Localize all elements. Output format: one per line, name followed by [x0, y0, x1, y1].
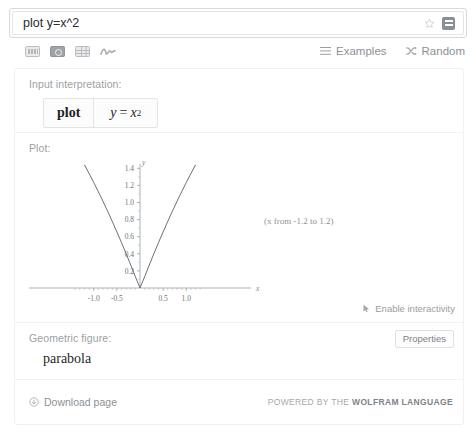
enable-interactivity-link[interactable]: Enable interactivity [362, 303, 455, 314]
cursor-icon [362, 304, 371, 313]
download-page-link[interactable]: Download page [29, 396, 117, 408]
pod-title-input-interpretation: Input interpretation: [15, 69, 463, 90]
powered-by-wolfram: POWERED BY THE WOLFRAM LANGUAGE [268, 397, 453, 407]
result-card: Input interpretation: plot y = x2 Plot: [14, 68, 464, 425]
hamburger-icon [320, 47, 331, 56]
wolfram-alpha-result-page: Examples Random Input interpretation: pl… [0, 0, 476, 436]
keyboard-icon[interactable] [25, 46, 40, 57]
random-label: Random [422, 45, 465, 57]
svg-text:1.4: 1.4 [125, 164, 135, 173]
svg-text:0.6: 0.6 [125, 232, 135, 241]
plot-range-note: (x from -1.2 to 1.2) [264, 216, 334, 226]
y-tick-labels: 0.2 0.4 0.6 0.8 1.0 1.2 1.4 [125, 164, 135, 276]
download-page-label: Download page [44, 396, 117, 408]
toolbar: Examples Random [9, 41, 467, 61]
svg-text:1.0: 1.0 [182, 294, 192, 303]
toolbar-input-icons [9, 46, 116, 57]
powered-prefix: POWERED BY THE [268, 397, 352, 407]
pod-geometric-figure: Geometric figure: parabola Properties [15, 323, 463, 380]
examples-label: Examples [336, 45, 387, 57]
random-link[interactable]: Random [405, 45, 465, 57]
pod-title-plot: Plot: [15, 133, 463, 154]
query-bar [9, 8, 467, 38]
x-axis-label: x [255, 284, 260, 293]
data-table-icon[interactable] [75, 46, 90, 57]
interpretation-expression: y = x2 [93, 99, 157, 127]
wolfram-language-brand: WOLFRAM LANGUAGE [352, 397, 453, 407]
svg-text:-0.5: -0.5 [111, 294, 123, 303]
svg-text:0.5: 0.5 [158, 294, 168, 303]
interpretation-operator: plot [44, 99, 93, 127]
svg-text:1.2: 1.2 [125, 181, 135, 190]
svg-text:1.0: 1.0 [125, 198, 135, 207]
keyboard-menu-icon[interactable] [442, 17, 455, 30]
properties-button[interactable]: Properties [395, 330, 454, 348]
handwriting-icon[interactable] [100, 46, 116, 57]
star-icon[interactable] [424, 18, 435, 29]
enable-interactivity-label: Enable interactivity [375, 303, 455, 314]
svg-text:0.8: 0.8 [125, 215, 135, 224]
y-axis-label: y [141, 158, 146, 167]
pod-plot: Plot: x y [15, 133, 463, 323]
download-icon [29, 397, 39, 407]
parabola-plot: x y -1.0 -0.5 0.5 1.0 [23, 156, 263, 306]
card-footer: Download page POWERED BY THE WOLFRAM LAN… [15, 380, 463, 424]
plot-area: x y -1.0 -0.5 0.5 1.0 [15, 154, 464, 319]
examples-link[interactable]: Examples [320, 45, 387, 57]
pod-input-interpretation: Input interpretation: plot y = x2 [15, 69, 463, 133]
toolbar-links: Examples Random [320, 45, 467, 57]
expression-exponent: 2 [137, 108, 142, 118]
shuffle-icon [405, 46, 417, 56]
expression-lhs: y [110, 105, 116, 121]
image-input-icon[interactable] [50, 46, 65, 57]
x-tick-labels: -1.0 -0.5 0.5 1.0 [88, 294, 191, 303]
search-input[interactable] [13, 12, 424, 34]
query-bar-actions [424, 17, 463, 30]
svg-text:-1.0: -1.0 [88, 294, 100, 303]
input-interpretation-box: plot y = x2 [43, 98, 158, 128]
query-bar-inner [12, 11, 464, 35]
y-major-ticks [137, 168, 140, 271]
expression-equals: = [120, 105, 128, 121]
